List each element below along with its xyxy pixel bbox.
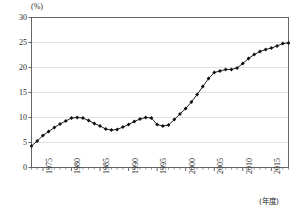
data-point-marker bbox=[127, 123, 131, 127]
data-point-marker bbox=[75, 116, 79, 120]
data-point-marker bbox=[275, 44, 279, 48]
data-point-marker bbox=[224, 68, 228, 72]
data-point-marker bbox=[81, 116, 85, 120]
data-point-marker bbox=[121, 125, 125, 129]
y-tick-label: 20 bbox=[5, 64, 27, 72]
data-point-marker bbox=[287, 41, 291, 45]
data-point-marker bbox=[64, 119, 68, 123]
x-tick-label: 2010 bbox=[246, 158, 254, 174]
data-point-marker bbox=[92, 122, 96, 126]
data-point-marker bbox=[218, 69, 222, 73]
data-point-marker bbox=[161, 124, 165, 128]
data-point-marker bbox=[264, 48, 268, 52]
data-point-marker bbox=[258, 50, 262, 54]
data-point-marker bbox=[144, 116, 148, 120]
y-tick-label: 0 bbox=[5, 164, 27, 172]
data-point-marker bbox=[104, 127, 108, 131]
x-tick-label: 1980 bbox=[74, 158, 82, 174]
x-tick-label: 2000 bbox=[189, 158, 197, 174]
data-point-marker bbox=[269, 46, 273, 50]
y-tick-label: 25 bbox=[5, 39, 27, 47]
x-tick-label: 1990 bbox=[132, 158, 140, 174]
line-chart-plot bbox=[0, 0, 302, 211]
x-tick-label: 1985 bbox=[103, 158, 111, 174]
data-point-marker bbox=[132, 120, 136, 124]
x-tick-label: 2005 bbox=[217, 158, 225, 174]
x-tick-label: 1995 bbox=[160, 158, 168, 174]
x-tick-label: 2015 bbox=[274, 158, 282, 174]
x-tick-label: 1975 bbox=[46, 158, 54, 174]
data-point-marker bbox=[110, 128, 114, 132]
y-tick-label: 30 bbox=[5, 14, 27, 22]
y-tick-label: 5 bbox=[5, 139, 27, 147]
data-point-marker bbox=[87, 119, 91, 123]
y-tick-label: 15 bbox=[5, 89, 27, 97]
data-point-marker bbox=[115, 128, 119, 132]
y-tick-label: 10 bbox=[5, 114, 27, 122]
data-point-marker bbox=[98, 124, 102, 128]
data-point-marker bbox=[229, 68, 233, 72]
chart-container: (%) (年度) 051015202530 197519801985199019… bbox=[0, 0, 302, 211]
data-point-marker bbox=[70, 116, 74, 120]
